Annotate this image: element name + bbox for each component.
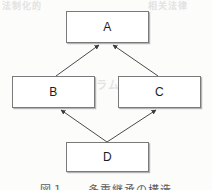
figure-caption: 図１ 多重継承の構造 (0, 181, 212, 190)
node-a-label: A (67, 12, 148, 42)
node-c[interactable]: C (118, 76, 201, 108)
edge-d-to-b (61, 110, 107, 142)
node-b-label: B (13, 77, 94, 107)
node-a[interactable]: A (66, 11, 149, 43)
node-c-label: C (119, 77, 200, 107)
edge-d-to-c (107, 110, 156, 142)
node-b[interactable]: B (12, 76, 95, 108)
node-d-label: D (67, 143, 148, 171)
scanned-page: 法制化的 相关法律 プログラム 要求仕様 A B C D 図１ 多重継承の構造 (0, 0, 212, 190)
edge-b-to-a (56, 45, 99, 76)
edge-c-to-a (113, 45, 158, 76)
node-d[interactable]: D (66, 142, 149, 172)
